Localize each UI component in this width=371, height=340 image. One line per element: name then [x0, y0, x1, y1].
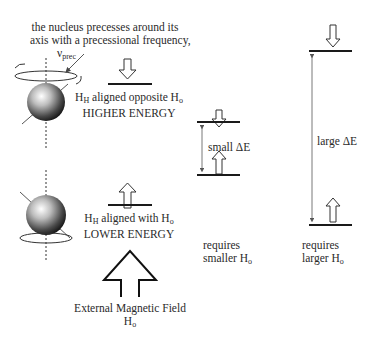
upper-state-label: HH aligned opposite Ho HIGHER ENERGY — [68, 91, 190, 120]
diagram-graphics — [0, 0, 371, 340]
large-gap-levels — [309, 25, 352, 225]
upper-energy-level — [108, 59, 152, 84]
field-arrow-icon — [104, 251, 156, 297]
lower-energy-level — [108, 183, 152, 208]
lower-state-energy: LOWER ENERGY — [68, 228, 190, 241]
precession-caption: the nucleus precesses around its axis wi… — [30, 21, 180, 47]
field-label-line-2: Ho — [60, 315, 200, 331]
upper-state-energy: HIGHER ENERGY — [68, 107, 190, 120]
field-label-line-1: External Magnetic Field — [60, 302, 200, 315]
caption-line-1: the nucleus precesses around its — [30, 21, 180, 34]
nu-prec-label: νprec — [57, 47, 76, 63]
large-gap-requirement: requires larger Ho — [302, 239, 344, 268]
lower-nucleus-icon — [20, 170, 72, 260]
large-delta-e-label: large ΔE — [317, 135, 357, 148]
small-gap-requirement: requires smaller Ho — [203, 239, 252, 268]
small-delta-e-label: small ΔE — [208, 141, 250, 154]
caption-line-2: axis with a precessional frequency, — [30, 34, 180, 47]
upper-state-alignment: HH aligned opposite Ho — [68, 91, 190, 107]
lower-state-alignment: HH aligned with Ho — [68, 212, 190, 228]
lower-state-label: HH aligned with Ho LOWER ENERGY — [68, 212, 190, 241]
field-label: External Magnetic Field Ho — [60, 302, 200, 331]
